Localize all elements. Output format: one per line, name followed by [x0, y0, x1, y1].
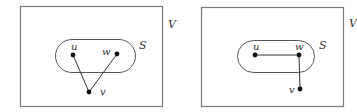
subset-s-label: S	[319, 39, 327, 52]
vertex-v	[87, 90, 92, 95]
vertex-u	[71, 53, 76, 58]
set-v-label: V	[349, 17, 357, 30]
set-v-frame	[21, 7, 163, 107]
panel-left: V S u w v	[21, 7, 178, 107]
subset-s-region	[56, 40, 136, 73]
vertex-v-label: v	[289, 84, 295, 95]
vertex-u-label: u	[71, 41, 77, 52]
vertex-v-label: v	[100, 86, 106, 97]
vertex-u-label: u	[253, 41, 259, 52]
vertex-w	[115, 52, 120, 57]
panel-right: V S u w v	[202, 8, 357, 107]
set-v-frame	[202, 8, 344, 107]
vertex-w-label: w	[102, 46, 111, 57]
diagram-canvas: V S u w v V S u w v	[0, 0, 357, 112]
vertex-w-label: w	[295, 41, 304, 52]
edge-u-v	[73, 55, 89, 92]
set-v-label: V	[168, 18, 177, 31]
subset-s-label: S	[139, 39, 147, 52]
vertex-v	[298, 87, 303, 92]
edge-w-v	[299, 55, 300, 89]
vertex-u	[253, 53, 258, 58]
vertex-w	[297, 53, 302, 58]
